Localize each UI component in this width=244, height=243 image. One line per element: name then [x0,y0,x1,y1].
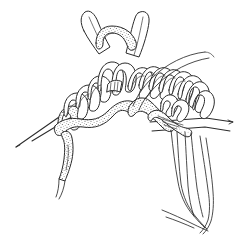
illustration-canvas: Knitting stitches on double-pointed need… [0,0,244,243]
stitch-detail-center [107,80,122,92]
knitting-illustration [0,0,244,243]
